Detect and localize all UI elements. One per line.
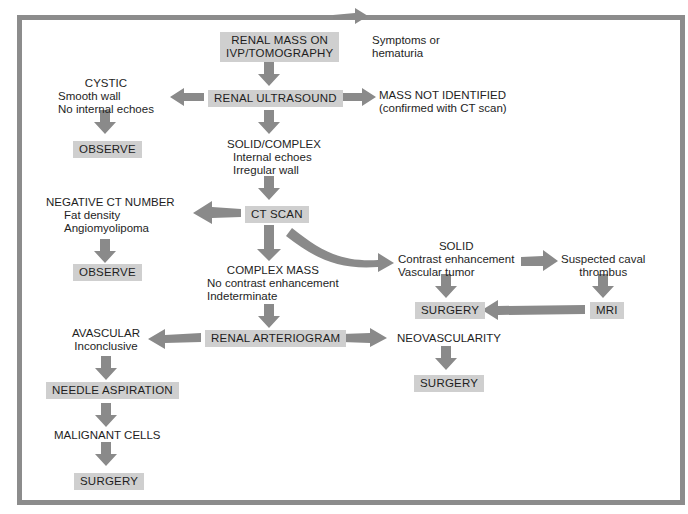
arrow-down-icon [258, 62, 280, 86]
node-line: thrombus [579, 266, 627, 278]
node-surgery-solid: SURGERY [415, 302, 485, 319]
arrow-down-icon [435, 346, 457, 370]
node-surgery-neovascularity: SURGERY [414, 375, 484, 392]
node-line: Angiomyolipoma [46, 222, 175, 235]
arrow-down-icon [258, 176, 280, 200]
node-renal-arteriogram: RENAL ARTERIOGRAM [205, 330, 346, 347]
arrow-down-icon [257, 225, 281, 261]
arrow-right-icon [342, 328, 387, 347]
node-title: SOLID [398, 240, 514, 253]
arrow-down-icon [95, 442, 117, 466]
node-observe-cystic: OBSERVE [73, 141, 142, 158]
node-line: No internal echoes [58, 103, 154, 115]
node-line: Indeterminate [207, 290, 277, 302]
node-title: NEGATIVE CT NUMBER [46, 196, 175, 208]
arrow-left-icon [148, 329, 201, 349]
node-ct-scan: CT SCAN [245, 206, 309, 223]
node-title: COMPLEX MASS [207, 264, 339, 277]
node-line: Irregular wall [227, 164, 321, 177]
node-needle-aspiration: NEEDLE ASPIRATION [46, 382, 179, 399]
node-line: Suspected caval [561, 253, 645, 265]
node-line: hematuria [372, 47, 423, 59]
node-malignant-cells: MALIGNANT CELLS [54, 429, 161, 442]
arrow-right-icon [333, 8, 368, 24]
arrow-left-icon [193, 201, 241, 224]
node-negative-ct: NEGATIVE CT NUMBER Fat density Angiomyol… [46, 196, 175, 235]
node-title: CYSTIC [58, 77, 154, 90]
node-mri: MRI [590, 302, 624, 319]
arrow-left-icon [170, 88, 204, 106]
node-observe-negative: OBSERVE [73, 264, 142, 281]
node-complex-mass: COMPLEX MASS No contrast enhancement Ind… [207, 264, 339, 303]
node-solid-complex: SOLID/COMPLEX Internal echoes Irregular … [227, 138, 321, 177]
arrow-down-icon [95, 403, 117, 427]
node-line: Internal echoes [227, 151, 321, 164]
node-surgery-final: SURGERY [74, 473, 144, 490]
node-cystic: CYSTIC Smooth wall No internal echoes [58, 77, 154, 116]
arrow-down-icon [95, 356, 117, 380]
arrow-down-icon [94, 239, 116, 263]
node-mass-not-identified: MASS NOT IDENTIFIED (confirmed with CT s… [379, 89, 507, 115]
node-symptoms: Symptoms or hematuria [372, 34, 440, 60]
node-line: RENAL MASS ON [231, 34, 328, 46]
node-title: AVASCULAR [72, 327, 140, 339]
node-caval-thrombus: Suspected caval thrombus [561, 253, 645, 279]
node-title: SOLID/COMPLEX [227, 138, 321, 150]
node-line: MASS NOT IDENTIFIED [379, 89, 506, 101]
node-avascular: AVASCULAR Inconclusive [72, 327, 140, 353]
node-line: Vascular tumor [398, 266, 474, 278]
node-renal-mass-ivp: RENAL MASS ON IVP/TOMOGRAPHY [220, 32, 339, 62]
arrow-down-icon [258, 304, 280, 328]
node-line: Fat density [46, 209, 175, 222]
node-line: (confirmed with CT scan) [379, 102, 507, 114]
arrow-right-icon [521, 250, 558, 271]
node-line: Symptoms or [372, 34, 440, 46]
node-line: IVP/TOMOGRAPHY [226, 47, 333, 59]
arrow-left-icon [482, 300, 585, 320]
node-renal-ultrasound: RENAL ULTRASOUND [208, 90, 343, 107]
node-solid: SOLID Contrast enhancement Vascular tumo… [398, 240, 514, 279]
node-line: Inconclusive [74, 340, 137, 352]
node-line: Smooth wall [58, 90, 121, 102]
node-line: Contrast enhancement [398, 253, 514, 265]
node-neovascularity: NEOVASCULARITY [397, 332, 501, 345]
arrow-down-icon [258, 110, 280, 134]
node-line: No contrast enhancement [207, 277, 339, 289]
arrow-right-icon [342, 88, 376, 106]
